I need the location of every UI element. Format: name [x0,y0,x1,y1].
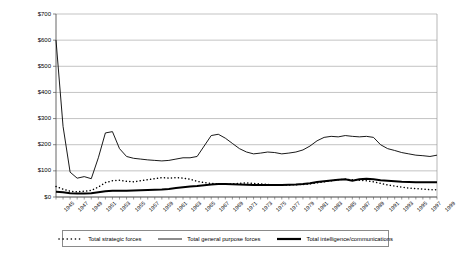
legend-item: Total intelligence/communications [276,236,392,242]
legend-label: Total general purpose forces [187,236,260,242]
legend-swatch-1 [157,236,183,242]
chart-legend: Total strategic forcesTotal general purp… [62,230,389,247]
legend-label: Total strategic forces [88,236,141,242]
legend-swatch-0 [58,236,84,242]
legend-label: Total intelligence/communications [306,236,392,242]
series-line-1 [56,40,437,179]
legend-item: Total general purpose forces [157,236,260,242]
legend-swatch-2 [276,236,302,242]
legend-item: Total strategic forces [58,236,141,242]
